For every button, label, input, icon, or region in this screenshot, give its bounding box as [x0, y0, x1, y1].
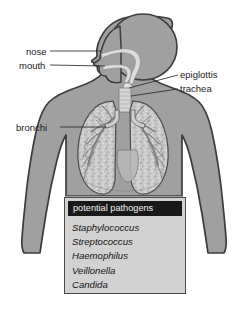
pathogen-list: Staphylococcus Streptococcus Haemophilus…: [65, 216, 185, 292]
list-item: Veillonella: [72, 264, 185, 278]
label-nose: nose: [26, 47, 47, 57]
label-mouth: mouth: [19, 61, 45, 71]
pathogen-panel-header: potential pathogens: [68, 201, 182, 216]
potential-pathogens-panel: potential pathogens Staphylococcus Strep…: [64, 197, 186, 294]
label-trachea: trachea: [180, 84, 212, 94]
list-item: Staphylococcus: [72, 221, 185, 235]
label-epiglottis: epiglottis: [180, 70, 218, 80]
list-item: Streptococcus: [72, 235, 185, 249]
label-bronchi: bronchi: [16, 123, 47, 133]
list-item: Haemophilus: [72, 249, 185, 263]
list-item: Candida: [72, 278, 185, 292]
